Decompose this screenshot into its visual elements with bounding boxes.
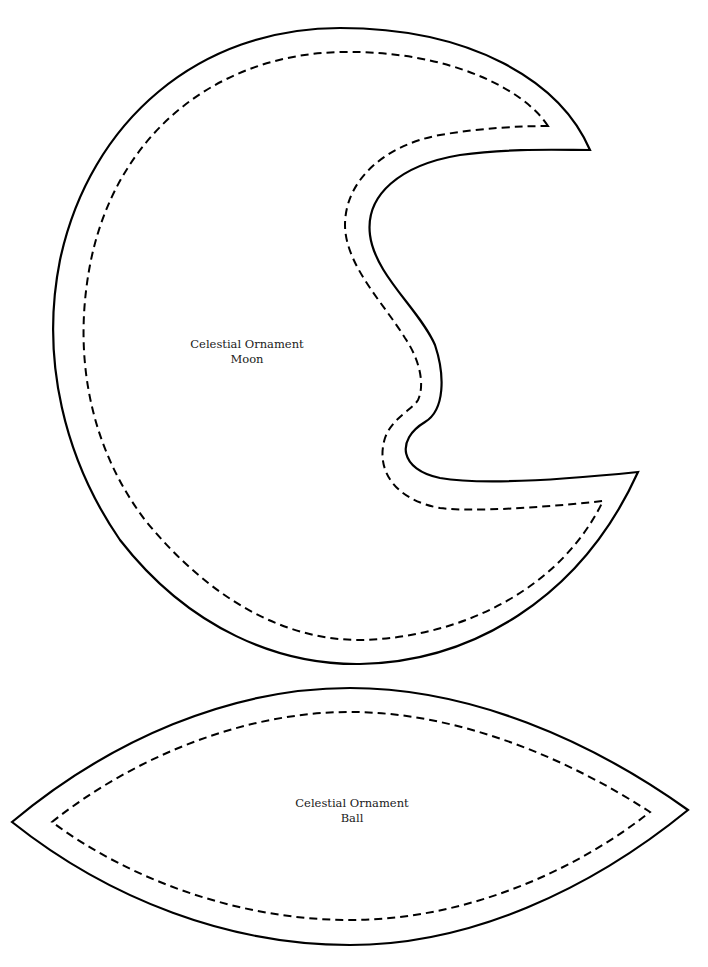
ball-title: Celestial Ornament	[270, 796, 434, 811]
ball-piece-label: Celestial Ornament Ball	[270, 796, 434, 826]
pattern-sheet: Celestial Ornament Moon Celestial Orname…	[0, 0, 708, 967]
ball-subtitle: Ball	[270, 811, 434, 826]
moon-cut-line	[53, 28, 638, 664]
moon-title: Celestial Ornament	[180, 337, 314, 352]
moon-sew-line	[84, 52, 603, 640]
moon-subtitle: Moon	[180, 352, 314, 367]
moon-piece-label: Celestial Ornament Moon	[180, 337, 314, 367]
